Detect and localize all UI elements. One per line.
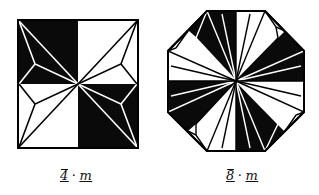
mirror-symbol: m [79,168,92,183]
square-4bar-m-figure [0,0,319,195]
octagon-figure [168,11,304,151]
mirror-symbol: m [245,168,258,183]
square-figure [18,20,138,148]
separator: · [72,168,77,183]
separator: · [238,168,243,183]
rotoinversion-symbol: 8 [226,168,235,183]
rotoinversion-symbol: 4 [60,168,69,183]
octagon-label: 8·m [226,168,258,183]
square-label: 4·m [60,168,92,183]
